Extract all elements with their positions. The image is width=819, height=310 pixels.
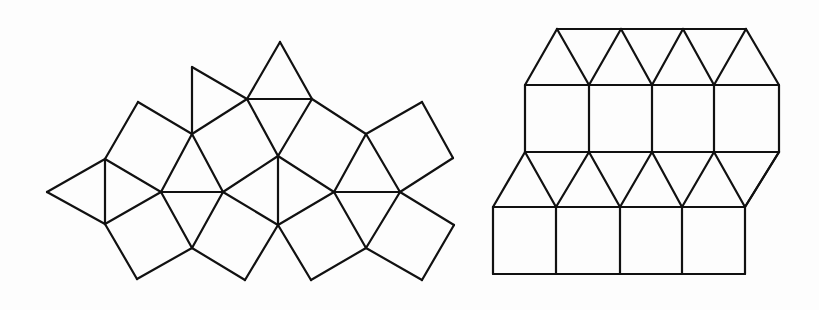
tile-edge bbox=[366, 102, 422, 134]
tile-edge bbox=[278, 225, 311, 280]
tile-edge bbox=[400, 158, 453, 192]
tile-edge bbox=[223, 192, 278, 225]
tile-edge bbox=[493, 152, 525, 207]
tile-edge bbox=[621, 29, 652, 85]
tile-edge bbox=[525, 152, 556, 207]
tile-edge bbox=[366, 248, 422, 280]
tile-edge bbox=[652, 152, 682, 207]
tile-edge bbox=[620, 152, 652, 207]
tile-edge bbox=[714, 152, 745, 207]
tile-edge bbox=[105, 192, 161, 224]
tiling-diagram bbox=[0, 0, 819, 310]
tile-edge bbox=[682, 152, 714, 207]
left-tiling-figure bbox=[47, 42, 454, 280]
tile-edge bbox=[311, 248, 366, 280]
tile-edge bbox=[47, 192, 105, 224]
tile-edge bbox=[105, 224, 137, 279]
tile-edge bbox=[745, 152, 779, 207]
tile-edge bbox=[105, 159, 161, 192]
tile-edge bbox=[334, 192, 366, 248]
tile-edge bbox=[556, 152, 589, 207]
tile-edge bbox=[366, 134, 400, 192]
tile-edge bbox=[280, 42, 312, 99]
tile-edge bbox=[525, 29, 557, 85]
tile-edge bbox=[161, 192, 192, 248]
tile-edge bbox=[312, 99, 366, 134]
tile-edge bbox=[278, 156, 334, 192]
tile-edge bbox=[247, 42, 280, 99]
tile-edge bbox=[192, 99, 247, 134]
tile-edge bbox=[138, 102, 192, 134]
tile-edge bbox=[223, 156, 278, 192]
tile-edge bbox=[137, 248, 192, 279]
tile-edge bbox=[334, 134, 366, 192]
tile-edge bbox=[192, 248, 245, 280]
tile-edge bbox=[247, 99, 278, 156]
tile-edge bbox=[278, 192, 334, 225]
tile-edge bbox=[589, 152, 620, 207]
tile-edge bbox=[400, 192, 454, 225]
tile-edge bbox=[278, 99, 312, 156]
tile-edge bbox=[161, 134, 192, 192]
tile-edge bbox=[746, 29, 779, 85]
tile-edge bbox=[105, 102, 138, 159]
tile-edge bbox=[683, 29, 714, 85]
tile-edge bbox=[422, 225, 454, 280]
tile-edge bbox=[422, 102, 453, 158]
tile-edge bbox=[245, 225, 278, 280]
tile-edge bbox=[589, 29, 621, 85]
tile-edge bbox=[192, 192, 223, 248]
tile-edge bbox=[652, 29, 683, 85]
tile-edge bbox=[714, 29, 746, 85]
tile-edge bbox=[192, 134, 223, 192]
tile-edge bbox=[366, 192, 400, 248]
right-tiling-figure bbox=[493, 29, 779, 274]
tile-edge bbox=[192, 67, 247, 99]
tile-edge bbox=[557, 29, 589, 85]
tile-edge bbox=[47, 159, 105, 192]
